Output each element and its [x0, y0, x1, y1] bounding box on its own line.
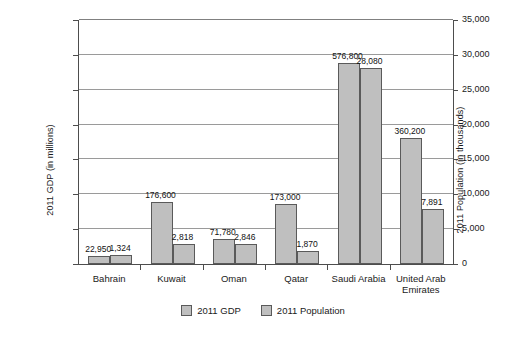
bar-gdp-qatar	[275, 204, 297, 264]
x-axis-category-label: United Arab Emirates	[380, 273, 462, 295]
gridline	[79, 19, 453, 20]
bar-value-label: 1,870	[286, 240, 328, 249]
legend-item[interactable]: 2011 Population	[261, 305, 345, 316]
gridline	[79, 54, 453, 55]
gridline	[79, 158, 453, 159]
x-axis-tick	[390, 265, 391, 270]
y-axis-right-tick-label: 15,000	[462, 154, 490, 163]
y-axis-left-title: 2011 GDP (in millions)	[45, 124, 55, 215]
y-axis-right-tick-label: 25,000	[462, 85, 490, 94]
legend-label: 2011 GDP	[197, 305, 241, 316]
y-axis-right-tick-label: 5,000	[462, 224, 485, 233]
bar-population-united-arab-emirates	[422, 209, 444, 264]
bar-value-label: 173,000	[264, 193, 306, 202]
bar-population-saudi-arabia	[360, 68, 382, 264]
bar-value-label: 28,080	[349, 57, 391, 66]
bar-gdp-oman	[213, 239, 235, 264]
plot-area	[78, 20, 454, 265]
bar-value-label: 176,600	[140, 191, 182, 200]
x-axis-tick	[327, 265, 328, 270]
y-axis-right-tick-label: 30,000	[462, 50, 490, 59]
legend-label: 2011 Population	[277, 305, 345, 316]
bar-population-qatar	[297, 251, 319, 264]
bar-value-label: 2,818	[162, 233, 204, 242]
y-axis-right-tick-label: 10,000	[462, 189, 490, 198]
gridline	[79, 124, 453, 125]
legend-swatch-icon	[261, 305, 272, 316]
legend-item[interactable]: 2011 GDP	[181, 305, 241, 316]
bar-population-bahrain	[110, 255, 132, 264]
bar-value-label: 360,200	[389, 127, 431, 136]
gridline	[79, 89, 453, 90]
bar-population-oman	[235, 244, 257, 264]
bar-gdp-bahrain	[88, 256, 110, 264]
y-axis-right-tick-label: 35,000	[462, 15, 490, 24]
bar-population-kuwait	[173, 244, 195, 264]
bar-value-label: 1,324	[99, 244, 141, 253]
legend-swatch-icon	[181, 305, 192, 316]
chart-legend: 2011 GDP2011 Population	[0, 305, 526, 316]
y-axis-right-tick-label: 0	[462, 259, 467, 268]
gridline	[79, 228, 453, 229]
bar-chart: 2011 GDP (in millions) 2011 Population (…	[0, 0, 526, 339]
x-axis-tick	[140, 265, 141, 270]
x-axis-tick	[265, 265, 266, 270]
bar-value-label: 2,846	[224, 233, 266, 242]
y-axis-right-tick-label: 20,000	[462, 120, 490, 129]
bar-value-label: 7,891	[411, 198, 453, 207]
x-axis-tick	[203, 265, 204, 270]
bar-gdp-saudi-arabia	[338, 63, 360, 264]
